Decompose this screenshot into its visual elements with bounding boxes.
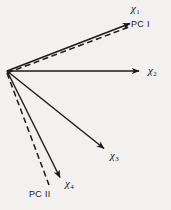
label-chi-1: χ1 [131,3,140,16]
label-chi-1-subscript: 1 [136,8,140,16]
vector-chi-4 [7,71,60,178]
label-pc-one: PC I [131,20,150,29]
axis-pc-one [7,27,129,73]
label-chi-2-subscript: 2 [153,70,157,78]
label-pc-two: PC II [29,190,51,199]
vector-chi-1 [7,24,130,72]
vector-plot-canvas [0,0,171,210]
label-chi-4-subscript: 4 [70,183,74,191]
label-chi-2: χ2 [148,65,157,78]
label-chi-3: χ3 [110,150,119,163]
axis-pc-two [7,73,49,185]
label-chi-3-subscript: 3 [115,155,119,163]
vector-diagram-figure: χ1 PC I χ2 χ3 χ4 PC II [0,0,171,210]
label-chi-4: χ4 [65,178,74,191]
